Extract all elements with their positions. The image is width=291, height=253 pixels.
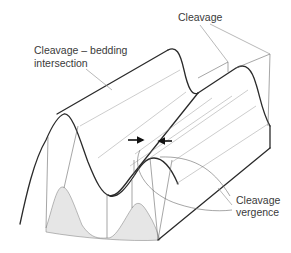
front-cleavage-1 bbox=[46, 137, 48, 228]
axis-line-3 bbox=[130, 96, 232, 166]
leader-vergence bbox=[218, 188, 232, 205]
cleavage-fold-diagram: Cleavage – bedding intersection Cleavage… bbox=[0, 0, 291, 253]
axis-line-6 bbox=[176, 124, 268, 184]
label-intersection-line1: Cleavage – bedding bbox=[34, 44, 128, 56]
front-cleavage-2 bbox=[64, 126, 78, 188]
leader-cleavage-2 bbox=[210, 24, 270, 54]
front-cleavage-7 bbox=[158, 160, 172, 240]
label-vergence-line1: Cleavage bbox=[236, 194, 281, 206]
back-profile-left bbox=[168, 49, 198, 94]
leader-cleavage-1 bbox=[200, 25, 228, 62]
front-bedding-profile bbox=[20, 114, 178, 224]
shaded-bedding-layer bbox=[46, 187, 160, 241]
trough-line bbox=[108, 93, 198, 196]
cleavage-plane-top-2 bbox=[236, 54, 270, 68]
axis-line-4 bbox=[150, 90, 248, 158]
label-cleavage: Cleavage bbox=[178, 11, 223, 23]
axis-line-1 bbox=[80, 70, 180, 126]
axis-line-7 bbox=[135, 98, 212, 154]
label-intersection-line2: intersection bbox=[34, 57, 88, 69]
cleavage-plane-edge-2 bbox=[268, 54, 270, 126]
leader-intersection bbox=[86, 69, 112, 90]
label-vergence-line2: vergence bbox=[236, 206, 279, 218]
